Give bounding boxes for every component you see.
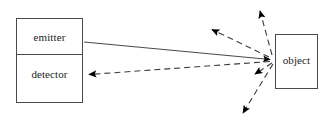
- object-label: object: [275, 54, 318, 66]
- emitted-beam-ray: [84, 42, 270, 60]
- reflected-to-detector-ray: [89, 62, 270, 75]
- emitter-label: emitter: [16, 31, 83, 43]
- optical-sensing-diagram: emitter detector object: [0, 0, 332, 127]
- scatter-up-ray: [260, 11, 272, 55]
- detector-label: detector: [16, 68, 83, 80]
- scatter-lower-left-ray: [255, 63, 272, 74]
- scatter-upper-left-ray: [212, 30, 269, 58]
- scatter-down-ray: [243, 64, 273, 113]
